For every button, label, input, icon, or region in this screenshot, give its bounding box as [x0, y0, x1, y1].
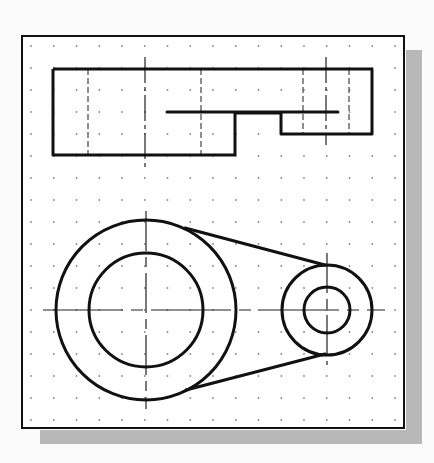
- grid-dot: [30, 265, 32, 267]
- grid-dot: [280, 375, 282, 377]
- grid-dot: [121, 265, 123, 267]
- grid-dot: [212, 45, 214, 47]
- grid-dot: [98, 111, 100, 113]
- grid-dot: [98, 177, 100, 179]
- grid-dot: [371, 397, 373, 399]
- grid-dot: [326, 419, 328, 421]
- grid-dot: [258, 89, 260, 91]
- grid-dot: [121, 353, 123, 355]
- grid-dot: [258, 397, 260, 399]
- grid-dot: [349, 397, 351, 399]
- grid-dot: [189, 89, 191, 91]
- grid-dot: [76, 375, 78, 377]
- grid-dot: [235, 89, 237, 91]
- grid-dot: [98, 419, 100, 421]
- grid-dot: [258, 177, 260, 179]
- grid-dot: [76, 133, 78, 135]
- grid-dot: [53, 265, 55, 267]
- grid-dot: [212, 397, 214, 399]
- grid-dot: [167, 177, 169, 179]
- grid-dot: [258, 353, 260, 355]
- grid-dot: [258, 419, 260, 421]
- grid-dot: [189, 265, 191, 267]
- grid-dot: [371, 331, 373, 333]
- drawing-canvas: [0, 0, 434, 463]
- grid-dot: [76, 265, 78, 267]
- grid-dot: [189, 353, 191, 355]
- grid-dot: [326, 243, 328, 245]
- grid-dot: [189, 331, 191, 333]
- grid-dot: [189, 133, 191, 135]
- grid-dot: [189, 177, 191, 179]
- grid-dot: [303, 353, 305, 355]
- grid-dot: [349, 375, 351, 377]
- grid-dot: [30, 177, 32, 179]
- grid-dot: [30, 353, 32, 355]
- grid-dot: [98, 331, 100, 333]
- grid-dot: [189, 199, 191, 201]
- grid-dot: [280, 177, 282, 179]
- grid-dot: [76, 419, 78, 421]
- grid-dot: [394, 45, 396, 47]
- shadow-bottom: [40, 430, 422, 444]
- grid-dot: [349, 111, 351, 113]
- grid-dot: [371, 199, 373, 201]
- grid-dot: [121, 177, 123, 179]
- grid-dot: [76, 353, 78, 355]
- grid-dot: [212, 353, 214, 355]
- grid-dot: [394, 133, 396, 135]
- grid-dot: [189, 375, 191, 377]
- grid-dot: [121, 419, 123, 421]
- grid-dot: [53, 45, 55, 47]
- grid-dot: [235, 45, 237, 47]
- grid-dot: [98, 243, 100, 245]
- grid-dot: [167, 419, 169, 421]
- grid-dot: [189, 221, 191, 223]
- grid-dot: [98, 45, 100, 47]
- grid-dot: [144, 177, 146, 179]
- grid-dot: [121, 287, 123, 289]
- grid-dot: [280, 265, 282, 267]
- grid-dot: [30, 67, 32, 69]
- grid-dot: [258, 199, 260, 201]
- grid-dot: [53, 331, 55, 333]
- grid-dot: [280, 397, 282, 399]
- grid-dot: [98, 287, 100, 289]
- grid-dot: [98, 89, 100, 91]
- grid-dot: [303, 397, 305, 399]
- grid-dot: [30, 419, 32, 421]
- grid-dot: [303, 177, 305, 179]
- grid-dot: [394, 287, 396, 289]
- grid-dot: [371, 243, 373, 245]
- grid-dot: [121, 375, 123, 377]
- grid-dot: [371, 419, 373, 421]
- grid-dot: [349, 243, 351, 245]
- grid-dot: [349, 353, 351, 355]
- grid-dot: [98, 133, 100, 135]
- grid-dot: [30, 221, 32, 223]
- grid-dot: [144, 419, 146, 421]
- grid-dot: [121, 45, 123, 47]
- grid-dot: [394, 221, 396, 223]
- grid-dot: [30, 155, 32, 157]
- grid-dot: [235, 419, 237, 421]
- grid-dot: [98, 199, 100, 201]
- grid-dot: [212, 243, 214, 245]
- grid-dot: [394, 243, 396, 245]
- grid-dot: [349, 287, 351, 289]
- grid-dot: [212, 133, 214, 135]
- grid-dot: [167, 265, 169, 267]
- grid-dot: [76, 397, 78, 399]
- grid-dot: [167, 133, 169, 135]
- grid-dot: [212, 89, 214, 91]
- grid-dot: [303, 331, 305, 333]
- grid-dot: [30, 133, 32, 135]
- grid-dot: [30, 45, 32, 47]
- grid-dot: [167, 45, 169, 47]
- grid-dot: [258, 45, 260, 47]
- grid-dot: [235, 331, 237, 333]
- grid-dot: [30, 287, 32, 289]
- grid-dot: [303, 243, 305, 245]
- grid-dot: [235, 397, 237, 399]
- grid-dot: [235, 199, 237, 201]
